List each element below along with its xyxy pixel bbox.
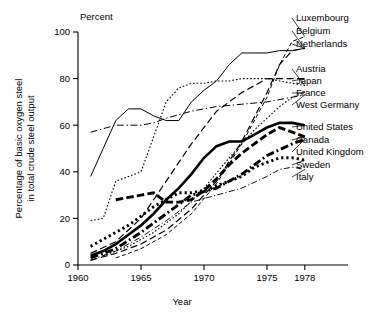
series-line-italy (91, 167, 305, 260)
y-tick-label-20: 20 (59, 213, 70, 224)
series-label-sweden: Sweden (296, 159, 330, 170)
chart-text-layer: 02040608010019601965197019751978Luxembou… (13, 11, 364, 307)
series-line-luxembourg (116, 37, 305, 258)
x-tick-label-1960: 1960 (67, 272, 88, 283)
series-label-austria: Austria (296, 63, 326, 74)
series-label-italy: Italy (296, 171, 314, 182)
x-tick-label-1965: 1965 (130, 272, 151, 283)
y-axis-title-line2: in total crude steel output (25, 95, 36, 202)
series-label-france: France (296, 87, 326, 98)
x-tick-label-1970: 1970 (193, 272, 214, 283)
series-label-netherlands: Netherlands (296, 38, 347, 49)
line-chart-canvas: 02040608010019601965197019751978Luxembou… (0, 0, 375, 313)
series-label-belgium: Belgium (296, 25, 330, 36)
x-axis-title: Year (172, 296, 191, 307)
series-label-west-germany: West Germany (296, 99, 359, 110)
series-label-united-states: United States (296, 121, 353, 132)
chart-figure: 02040608010019601965197019751978Luxembou… (0, 0, 375, 313)
series-label-canada: Canada (296, 134, 330, 145)
series-label-united-kingdom: United Kingdom (296, 146, 364, 157)
x-tick-label-1978: 1978 (294, 272, 315, 283)
y-unit-label: Percent (80, 11, 113, 22)
y-tick-label-80: 80 (59, 73, 70, 84)
x-tick-label-1975: 1975 (256, 272, 277, 283)
y-tick-label-40: 40 (59, 166, 70, 177)
series-label-luxembourg: Luxembourg (296, 12, 349, 23)
series-label-japan: Japan (296, 75, 322, 86)
chart-series-lines (91, 37, 305, 261)
y-tick-label-60: 60 (59, 120, 70, 131)
y-tick-label-0: 0 (65, 259, 70, 270)
series-line-sweden (91, 158, 305, 247)
series-line-netherlands (91, 48, 305, 176)
y-axis-title-line1: Percentage of basic oxygen steel (13, 79, 24, 219)
y-tick-label-100: 100 (54, 26, 70, 37)
